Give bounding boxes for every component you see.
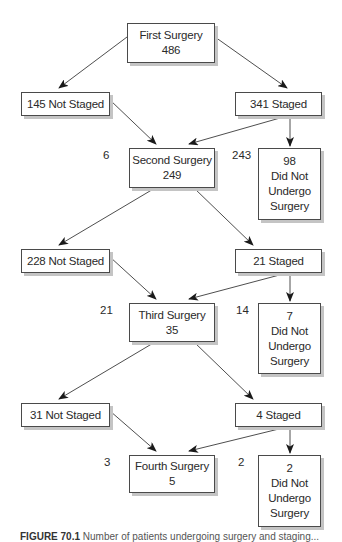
first-surgery-title: First Surgery <box>139 28 202 43</box>
edge-count-staged-1: 243 <box>232 149 251 161</box>
no-surgery-box-3: 2 Did Not Undergo Surgery <box>258 455 321 527</box>
fourth-surgery-title: Fourth Surgery <box>135 459 209 474</box>
not-staged-box-1: 145 Not Staged <box>21 92 110 116</box>
not-staged-label-2: 228 Not Staged <box>27 254 104 269</box>
second-surgery-box: Second Surgery 249 <box>129 148 215 188</box>
staged-box-1: 341 Staged <box>235 92 322 116</box>
arrow-staged-1-to-second-surgery <box>189 116 287 144</box>
no-surgery-box-2: 7 Did Not Undergo Surgery <box>258 303 321 374</box>
arrow-not-staged-2-to-third-surgery <box>110 257 156 299</box>
fourth-surgery-box: Fourth Surgery 5 <box>129 455 215 493</box>
figure-label: FIGURE 70.1 <box>20 531 80 542</box>
staged-label-2: 21 Staged <box>253 254 304 269</box>
no-surgery-text: Did Not <box>271 324 308 339</box>
staged-box-3: 4 Staged <box>235 403 322 427</box>
not-staged-label-3: 31 Not Staged <box>30 408 101 423</box>
arrow-first-surgery-to-not-staged-1 <box>59 37 127 88</box>
staged-label-3: 4 Staged <box>256 408 300 423</box>
no-surgery-text: Undergo <box>268 491 311 506</box>
edge-count-staged-3: 2 <box>238 456 244 468</box>
no-surgery-text: Surgery <box>270 199 309 214</box>
edge-count-staged-2: 14 <box>236 304 249 316</box>
no-surgery-text: Surgery <box>270 354 309 369</box>
staged-box-2: 21 Staged <box>235 249 322 273</box>
figure-caption: FIGURE 70.1 Number of patients undergoin… <box>20 531 319 542</box>
first-surgery-box: First Surgery 486 <box>127 23 215 63</box>
third-surgery-box: Third Surgery 35 <box>129 303 215 342</box>
not-staged-label-1: 145 Not Staged <box>27 97 104 112</box>
fourth-surgery-count: 5 <box>169 474 175 489</box>
no-surgery-text: Did Not <box>271 169 308 184</box>
edge-count-not-staged-2: 21 <box>100 304 113 316</box>
arrow-third-surgery-to-not-staged-3 <box>59 342 155 399</box>
arrow-third-surgery-to-staged-3 <box>194 342 253 399</box>
arrow-staged-3-to-fourth-surgery <box>189 427 287 451</box>
edge-count-not-staged-1: 6 <box>103 149 109 161</box>
not-staged-box-2: 228 Not Staged <box>21 249 110 273</box>
surgery-flow-diagram: First Surgery 486 145 Not Staged 341 Sta… <box>0 0 342 542</box>
no-surgery-text: Surgery <box>270 506 309 521</box>
arrow-second-surgery-to-not-staged-2 <box>59 188 155 245</box>
arrow-first-surgery-to-staged-1 <box>215 37 287 88</box>
arrow-staged-2-to-third-surgery <box>189 273 287 299</box>
arrow-second-surgery-to-staged-2 <box>194 188 253 245</box>
no-surgery-count-1: 98 <box>283 154 295 169</box>
edge-count-not-staged-3: 3 <box>104 456 110 468</box>
arrow-not-staged-1-to-second-surgery <box>110 100 156 144</box>
third-surgery-title: Third Surgery <box>138 308 205 323</box>
no-surgery-box-1: 98 Did Not Undergo Surgery <box>258 148 321 220</box>
staged-label-1: 341 Staged <box>250 97 307 112</box>
first-surgery-count: 486 <box>162 43 181 58</box>
no-surgery-text: Undergo <box>268 339 311 354</box>
no-surgery-text: Did Not <box>271 476 308 491</box>
arrow-not-staged-3-to-fourth-surgery <box>110 411 156 451</box>
third-surgery-count: 35 <box>166 323 178 338</box>
no-surgery-count-3: 2 <box>286 461 292 476</box>
no-surgery-count-2: 7 <box>286 309 292 324</box>
second-surgery-count: 249 <box>163 168 182 183</box>
second-surgery-title: Second Surgery <box>132 153 212 168</box>
figure-caption-text: Number of patients undergoing surgery an… <box>83 531 319 542</box>
not-staged-box-3: 31 Not Staged <box>21 403 110 427</box>
no-surgery-text: Undergo <box>268 184 311 199</box>
